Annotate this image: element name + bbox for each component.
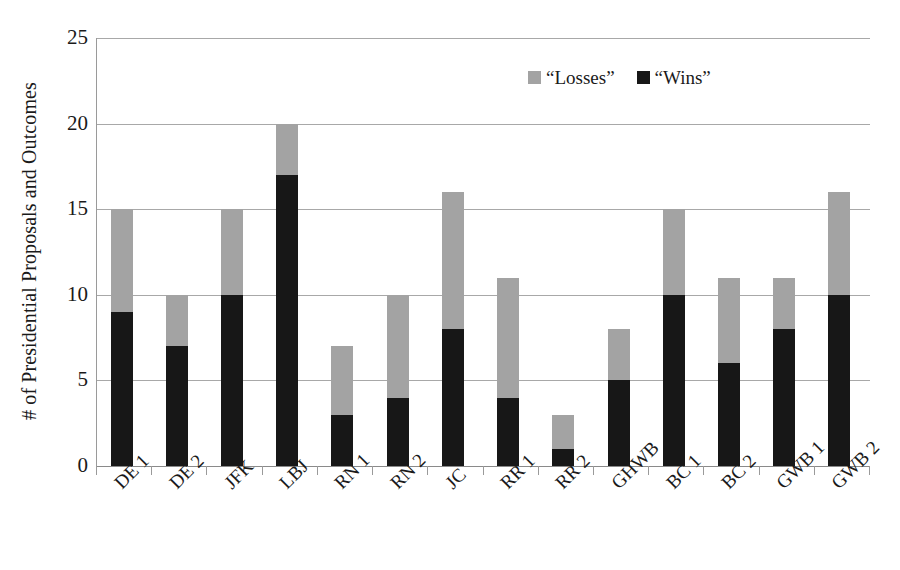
x-tick — [593, 466, 594, 475]
bar-segment-losses[interactable] — [387, 295, 409, 398]
stacked-bar-chart: # of Presidential Proposals and Outcomes… — [0, 0, 900, 570]
y-tick-label: 15 — [48, 198, 88, 219]
x-tick — [869, 466, 870, 475]
bar-segment-losses[interactable] — [276, 124, 298, 175]
x-tick — [538, 466, 539, 475]
x-tick — [372, 466, 373, 475]
x-tick — [759, 466, 760, 475]
bar-segment-losses[interactable] — [442, 192, 464, 329]
bar-segment-losses[interactable] — [773, 278, 795, 329]
legend-item[interactable]: “Wins” — [637, 68, 711, 87]
chart-legend: “Losses”“Wins” — [528, 64, 711, 90]
legend-label: “Wins” — [655, 68, 711, 87]
x-tick — [206, 466, 207, 475]
y-tick-label: 0 — [48, 455, 88, 476]
x-tick — [814, 466, 815, 475]
bar-segment-losses[interactable] — [166, 295, 188, 346]
y-axis-title: # of Presidential Proposals and Outcomes — [12, 16, 46, 486]
x-tick — [483, 466, 484, 475]
y-tick-label: 10 — [48, 284, 88, 305]
bar-segment-wins[interactable] — [111, 312, 133, 466]
bar-group[interactable] — [111, 209, 133, 466]
losses-swatch — [528, 71, 541, 84]
bar-segment-losses[interactable] — [828, 192, 850, 295]
bar-segment-losses[interactable] — [663, 209, 685, 295]
y-tick-label: 25 — [48, 27, 88, 48]
x-tick — [703, 466, 704, 475]
y-axis-tick-labels: 0510152025 — [46, 0, 88, 570]
wins-swatch — [637, 71, 650, 84]
bar-segment-losses[interactable] — [608, 329, 630, 380]
x-tick — [262, 466, 263, 475]
legend-label: “Losses” — [546, 68, 615, 87]
x-tick — [427, 466, 428, 475]
bar-segment-losses[interactable] — [497, 278, 519, 398]
x-tick — [648, 466, 649, 475]
x-tick — [317, 466, 318, 475]
legend-item[interactable]: “Losses” — [528, 68, 615, 87]
bar-segment-losses[interactable] — [221, 209, 243, 295]
bar-segment-losses[interactable] — [718, 278, 740, 364]
y-tick-label: 20 — [48, 113, 88, 134]
y-tick-label: 5 — [48, 369, 88, 390]
x-tick — [151, 466, 152, 475]
bar-segment-losses[interactable] — [111, 209, 133, 312]
x-tick — [96, 466, 97, 475]
